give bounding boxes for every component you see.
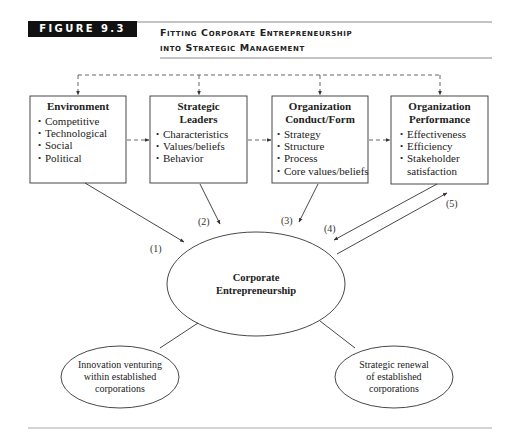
right-node-line-1: Strategic renewal <box>339 359 449 371</box>
environment-content: Environment Competitive Technological So… <box>30 100 126 164</box>
title-line-1: Fitting Corporate Entrepreneurship <box>160 25 500 40</box>
list-item: Values/beliefs <box>156 140 247 152</box>
figure-canvas: FIGURE 9.3 Fitting Corporate Entrepreneu… <box>0 0 517 440</box>
figure-title: Fitting Corporate Entrepreneurship into … <box>160 25 500 55</box>
box-heading: Strategic <box>150 100 247 113</box>
arrow-label-2: (2) <box>198 216 210 227</box>
arrow-label-1: (1) <box>150 243 162 254</box>
right-node-line-3: corporations <box>339 383 449 395</box>
feedback-bus <box>78 75 440 95</box>
strategic-leaders-content: Strategic Leaders Characteristics Values… <box>150 100 247 165</box>
left-node-label: Innovation venturing within established … <box>65 359 175 395</box>
box-heading: Conduct/Form <box>272 113 368 126</box>
list-item: Core values/beliefs <box>277 165 368 177</box>
arrow-5 <box>337 193 447 254</box>
arrow-label-4: (4) <box>324 223 336 234</box>
list-item: Effectiveness <box>400 128 488 140</box>
organization-conduct-content: Organization Conduct/Form Strategy Struc… <box>272 100 368 177</box>
figure-label: FIGURE 9.3 <box>28 21 137 37</box>
arrow-3 <box>299 184 318 222</box>
list-item: Efficiency <box>400 140 488 152</box>
organization-performance-content: Organization Performance Effectiveness E… <box>391 100 488 177</box>
arrow-label-3: (3) <box>281 215 293 226</box>
list-item: Strategy <box>277 128 368 140</box>
arrow-4 <box>334 184 437 240</box>
box-heading: Environment <box>30 100 126 113</box>
left-node-line-3: corporations <box>65 383 175 395</box>
box-heading: Organization <box>272 100 368 113</box>
connector-right <box>320 321 355 348</box>
left-node-line-2: within established <box>65 371 175 383</box>
arrow-label-5: (5) <box>446 198 458 209</box>
list-item: Process <box>277 152 368 164</box>
right-node-line-2: of established <box>339 371 449 383</box>
center-node-line-1: Corporate <box>176 271 336 284</box>
connector-left <box>160 323 198 348</box>
box-heading: Organization <box>391 100 488 113</box>
title-line-2: into Strategic Management <box>160 40 500 55</box>
box-heading: Performance <box>391 113 488 126</box>
list-item-continuation: satisfaction <box>400 165 488 177</box>
list-item: Competitive <box>38 115 126 127</box>
arrow-1 <box>85 183 184 242</box>
list-item: Technological <box>38 127 126 139</box>
list-item: Characteristics <box>156 128 247 140</box>
list-item: Structure <box>277 140 368 152</box>
list-item: Stakeholder <box>400 152 488 164</box>
center-node-label: Corporate Entrepreneurship <box>176 271 336 297</box>
list-item: Political <box>38 152 126 164</box>
influence-arrows <box>85 183 447 254</box>
list-item: Social <box>38 139 126 151</box>
left-node-line-1: Innovation venturing <box>65 359 175 371</box>
right-node-label: Strategic renewal of established corpora… <box>339 359 449 395</box>
center-node-line-2: Entrepreneurship <box>176 284 336 297</box>
box-heading: Leaders <box>150 113 247 126</box>
list-item: Behavior <box>156 152 247 164</box>
